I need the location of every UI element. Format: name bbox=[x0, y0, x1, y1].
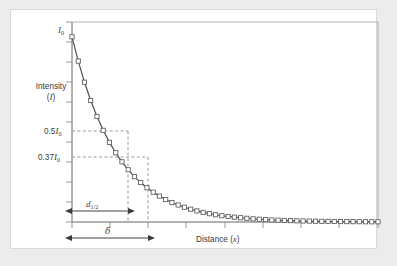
data-point-marker bbox=[82, 80, 86, 84]
data-point-marker bbox=[313, 219, 317, 223]
data-point-marker bbox=[245, 216, 249, 220]
data-point-marker bbox=[288, 219, 292, 223]
x-axis-title: Distance (x) bbox=[196, 234, 240, 245]
y-axis-title: Intensity (I) bbox=[28, 82, 74, 103]
data-point-marker bbox=[220, 214, 224, 218]
data-point-marker bbox=[89, 98, 93, 102]
d-half-label: d1/2 bbox=[86, 199, 98, 212]
data-point-marker bbox=[320, 219, 324, 223]
data-point-marker bbox=[76, 59, 80, 63]
data-point-marker bbox=[132, 175, 136, 179]
data-point-marker bbox=[95, 114, 99, 118]
y-axis-title-line1: Intensity bbox=[36, 82, 67, 91]
data-point-marker bbox=[301, 219, 305, 223]
data-point-marker bbox=[282, 218, 286, 222]
data-point-marker bbox=[207, 212, 211, 216]
data-point-marker bbox=[101, 128, 105, 132]
data-point-marker bbox=[338, 219, 342, 223]
data-point-marker bbox=[257, 217, 261, 221]
data-point-marker bbox=[351, 220, 355, 224]
data-point-marker bbox=[157, 194, 161, 198]
figure-page: I0 0.5I0 0.37I0 Intensity (I) Distance (… bbox=[0, 0, 397, 266]
data-point-marker bbox=[307, 219, 311, 223]
data-point-marker bbox=[332, 219, 336, 223]
data-point-marker bbox=[326, 219, 330, 223]
data-point-marker bbox=[363, 220, 367, 224]
plot-frame bbox=[72, 22, 378, 222]
delta-label: δ bbox=[105, 226, 110, 237]
y-label-half-intensity: 0.5I0 bbox=[44, 126, 61, 139]
data-point-marker bbox=[239, 216, 243, 220]
data-point-marker bbox=[226, 214, 230, 218]
data-point-marker bbox=[176, 203, 180, 207]
data-point-marker bbox=[126, 168, 130, 172]
y-label-one-over-e-intensity: 0.37I0 bbox=[38, 152, 60, 165]
curve-markers bbox=[70, 35, 380, 224]
data-point-marker bbox=[189, 207, 193, 211]
data-point-marker bbox=[201, 210, 205, 214]
data-point-marker bbox=[276, 218, 280, 222]
data-point-marker bbox=[264, 217, 268, 221]
data-point-marker bbox=[195, 209, 199, 213]
data-point-marker bbox=[182, 205, 186, 209]
data-point-marker bbox=[114, 151, 118, 155]
decay-curve bbox=[70, 35, 380, 224]
data-point-marker bbox=[139, 180, 143, 184]
data-point-marker bbox=[270, 218, 274, 222]
data-point-marker bbox=[357, 220, 361, 224]
data-point-marker bbox=[107, 140, 111, 144]
data-point-marker bbox=[295, 219, 299, 223]
data-point-marker bbox=[145, 186, 149, 190]
data-point-marker bbox=[345, 220, 349, 224]
data-point-marker bbox=[170, 200, 174, 204]
data-point-marker bbox=[164, 197, 168, 201]
data-point-marker bbox=[376, 220, 380, 224]
decay-chart: I0 0.5I0 0.37I0 Intensity (I) Distance (… bbox=[0, 0, 397, 266]
data-point-marker bbox=[370, 220, 374, 224]
data-point-marker bbox=[151, 190, 155, 194]
data-point-marker bbox=[120, 160, 124, 164]
data-point-marker bbox=[232, 215, 236, 219]
data-point-marker bbox=[214, 213, 218, 217]
y-label-i0: I0 bbox=[58, 25, 64, 38]
data-point-marker bbox=[70, 35, 74, 39]
data-point-marker bbox=[251, 217, 255, 221]
y-axis-ticks bbox=[66, 22, 72, 222]
